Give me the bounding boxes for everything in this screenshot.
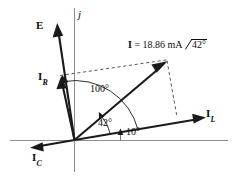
result-unit: mA: [168, 39, 183, 50]
result-angle-notation: 42°: [185, 39, 207, 50]
label-ic-subscript: C: [37, 159, 42, 168]
label-axis-j: j: [78, 9, 81, 20]
vector-il-arrowhead: [192, 114, 206, 124]
label-ir-subscript: R: [43, 78, 48, 87]
label-angle-42: 42°: [98, 118, 112, 128]
label-angle-100: 100°: [90, 84, 109, 94]
phasor-diagram: E j IR IL IC 100° 42° 10° I = 18.86 mA 4…: [0, 0, 236, 180]
dashed-parallel-to-il: [60, 60, 166, 76]
label-il-subscript: L: [211, 115, 216, 124]
label-vector-ir: IR: [38, 71, 48, 85]
result-angle-value: 42°: [191, 39, 207, 50]
label-result-expression: I = 18.86 mA 42°: [128, 39, 207, 50]
angle-symbol-icon: [185, 39, 192, 50]
label-ir-symbol: I: [38, 70, 42, 82]
label-vector-ic: IC: [32, 152, 42, 166]
label-ic-symbol: I: [32, 151, 36, 163]
vector-e-arrowhead: [53, 23, 64, 37]
label-e-symbol: E: [36, 19, 43, 31]
dashed-parallel-to-ir: [167, 61, 177, 118]
vector-i-shaft: [75, 68, 160, 140]
label-il-symbol: I: [206, 107, 210, 119]
label-angle-10: 10°: [126, 127, 140, 137]
result-magnitude: 18.86: [143, 39, 166, 50]
label-vector-e: E: [36, 20, 43, 31]
label-vector-il: IL: [206, 108, 215, 122]
vector-i-arrowhead: [151, 61, 167, 73]
